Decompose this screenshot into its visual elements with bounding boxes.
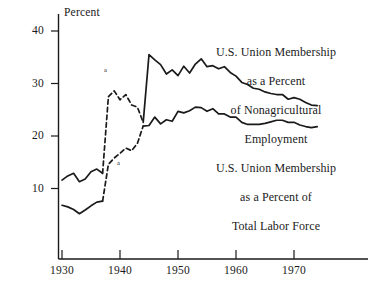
- series-label-line-1: U.S. Union Membership: [196, 161, 356, 176]
- y-tick-label-30: 30: [20, 77, 44, 89]
- series-label-line-4: Employment: [196, 132, 356, 147]
- x-tick-label-1970: 1970: [271, 264, 317, 276]
- x-tick-label-1930: 1930: [39, 264, 85, 276]
- chart-figure: Percent 40 30 20 10 1930 1940 1950 1960 …: [0, 0, 373, 290]
- x-tick-label-1950: 1950: [155, 264, 201, 276]
- series-label-line-3: Total Labor Force: [196, 219, 356, 234]
- footnote-mark-lower-series: a: [117, 159, 120, 166]
- series-label-line-2: as a Percent: [196, 74, 356, 89]
- x-tick-label-1940: 1940: [97, 264, 143, 276]
- series-label-line-1: U.S. Union Membership: [196, 45, 356, 60]
- y-axis-ticks: [51, 31, 59, 189]
- x-tick-label-1960: 1960: [213, 264, 259, 276]
- series-label-line-3: of Nonagricultural: [196, 103, 356, 118]
- x-axis-ticks: [62, 250, 294, 259]
- y-axis-title: Percent: [64, 6, 100, 18]
- y-tick-label-40: 40: [20, 24, 44, 36]
- series-label-total-labor-force: U.S. Union Membership as a Percent of To…: [196, 146, 356, 248]
- y-tick-label-20: 20: [20, 129, 44, 141]
- series-label-nonagricultural-employment: U.S. Union Membership as a Percent of No…: [196, 30, 356, 161]
- series-label-line-2: as a Percent of: [196, 190, 356, 205]
- y-tick-label-10: 10: [20, 182, 44, 194]
- footnote-mark-upper-series: a: [104, 66, 107, 73]
